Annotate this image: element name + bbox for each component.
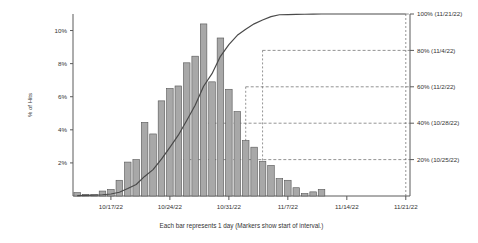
bar — [259, 161, 266, 196]
marker-label: 100% (11/21/22) — [417, 10, 462, 17]
chart-caption: Each bar represents 1 day (Markers show … — [160, 222, 324, 230]
bar — [234, 112, 241, 196]
bar — [158, 101, 165, 196]
x-tick-label: 11/21/22 — [394, 203, 418, 210]
bar — [167, 88, 174, 196]
bar — [108, 189, 115, 196]
bar — [141, 122, 148, 196]
bar — [183, 63, 190, 196]
x-tick-label: 11/7/22 — [278, 203, 299, 210]
bar — [242, 141, 249, 196]
bar — [276, 179, 283, 196]
x-tick-label: 10/17/22 — [99, 203, 124, 210]
x-tick-label: 10/24/22 — [158, 203, 183, 210]
bar — [301, 194, 308, 196]
bar — [285, 180, 292, 196]
x-tick-label: 11/14/22 — [335, 203, 359, 210]
x-tick-label: 10/31/22 — [217, 203, 242, 210]
bar — [192, 56, 199, 196]
y-tick-label: 6% — [58, 93, 67, 100]
marker-label: 40% (10/28/22) — [417, 119, 459, 126]
histogram-chart: 2%4%6%8%10%100% (11/21/22)80% (11/4/22)6… — [0, 0, 478, 243]
bar — [318, 189, 325, 196]
bar — [293, 188, 300, 196]
marker-label: 20% (10/25/22) — [417, 156, 459, 163]
bar — [124, 162, 131, 196]
bar — [175, 86, 182, 196]
bar — [310, 192, 317, 196]
y-tick-label: 2% — [58, 159, 67, 166]
bar — [226, 89, 233, 196]
y-axis-title: % of Hits — [27, 93, 33, 117]
y-tick-label: 10% — [55, 27, 68, 34]
marker-label: 60% (11/2/22) — [417, 83, 455, 90]
bar — [133, 160, 140, 196]
y-tick-label: 8% — [58, 60, 67, 67]
chart-canvas: 2%4%6%8%10%100% (11/21/22)80% (11/4/22)6… — [0, 0, 478, 243]
bar — [150, 134, 157, 196]
bar — [116, 180, 123, 196]
bar — [209, 82, 216, 196]
y-tick-label: 4% — [58, 126, 67, 133]
marker-label: 80% (11/4/22) — [417, 47, 455, 54]
bar — [251, 147, 258, 196]
bar — [268, 165, 275, 196]
bar — [200, 24, 207, 196]
